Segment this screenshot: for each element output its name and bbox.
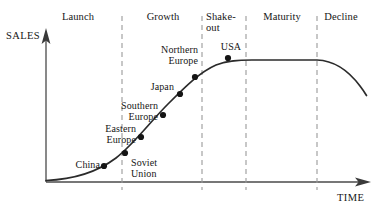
stage-label-shakeout: Shake- out (206, 11, 236, 33)
marker-label-northern-europe-line2: Europe (145, 56, 198, 67)
marker-label-eastern-europe-line1: Eastern (90, 124, 136, 135)
marker-label-southern-europe: Southern Europe (106, 101, 158, 122)
y-axis (42, 28, 51, 182)
dot-soviet-union (122, 150, 128, 156)
marker-label-northern-europe-line1: Northern (145, 45, 198, 56)
y-axis-label: SALES (6, 30, 40, 41)
marker-label-japan-line1: Japan (142, 82, 174, 93)
marker-label-japan: Japan (142, 82, 174, 93)
marker-label-soviet-union-line2: Union (131, 169, 173, 180)
marker-label-soviet-union-line1: Soviet (131, 158, 173, 169)
dot-usa (225, 55, 231, 61)
marker-label-southern-europe-line2: Europe (106, 112, 158, 123)
stage-label-shakeout-line2: out (206, 22, 236, 33)
marker-label-usa-line1: USA (221, 42, 241, 53)
x-axis (46, 177, 371, 186)
stage-label-launch: Launch (62, 11, 94, 22)
marker-label-china-line1: China (62, 160, 100, 171)
stage-label-decline: Decline (324, 11, 357, 22)
chart-canvas (0, 0, 378, 216)
dot-eastern-europe (138, 134, 144, 140)
stage-label-growth: Growth (147, 11, 180, 22)
marker-label-eastern-europe-line2: Europe (90, 135, 136, 146)
dot-japan (177, 91, 183, 97)
x-axis-label: TIME (337, 192, 364, 203)
dot-northern-europe (192, 74, 198, 80)
stage-label-shakeout-line1: Shake- (206, 11, 236, 22)
dot-southern-europe (160, 112, 166, 118)
marker-label-northern-europe: Northern Europe (145, 45, 198, 66)
marker-label-china: China (62, 160, 100, 171)
marker-label-eastern-europe: Eastern Europe (90, 124, 136, 145)
marker-label-southern-europe-line1: Southern (106, 101, 158, 112)
dot-china (101, 163, 107, 169)
marker-label-usa: USA (221, 42, 241, 53)
stage-label-maturity: Maturity (263, 11, 301, 22)
product-life-cycle-diagram: SALES TIME Launch Growth Shake- out Matu… (0, 0, 378, 216)
marker-label-soviet-union: Soviet Union (131, 158, 173, 179)
